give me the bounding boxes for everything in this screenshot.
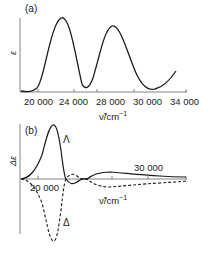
x-ticks-a — [38, 89, 186, 92]
tick-label: 30 000 — [133, 96, 162, 107]
tick-label: 34 000 — [170, 96, 199, 107]
lambda-curve — [21, 125, 186, 184]
x-axis-label-b: ν̃/cm−1 — [99, 194, 127, 206]
figure: (a) ε 20 000 24 000 28 000 30 000 34 000… — [0, 0, 208, 253]
tick-label: 20 000 — [24, 96, 53, 107]
panel-b: (b) Δε Λ Δ 20 000 30 000 ν̃/cm−1 — [8, 124, 187, 241]
epsilon-curve — [21, 18, 176, 92]
tick-label-20000: 20 000 — [30, 182, 59, 193]
delta-label: Δ — [63, 217, 70, 228]
x-tick-labels-a: 20 000 24 000 28 000 30 000 34 000 — [24, 96, 199, 107]
panel-a: (a) ε 20 000 24 000 28 000 30 000 34 000… — [8, 3, 199, 122]
x-axis-label-a: ν̃/cm−1 — [99, 110, 127, 122]
panel-b-label: (b) — [25, 125, 37, 136]
lambda-label: Λ — [63, 134, 70, 145]
panel-a-label: (a) — [25, 3, 37, 14]
y-axis-label-delta-epsilon: Δε — [8, 155, 18, 167]
tick-label: 28 000 — [96, 96, 125, 107]
tick-label: 24 000 — [59, 96, 88, 107]
tick-label-30000: 30 000 — [134, 162, 163, 173]
y-axis-label-epsilon: ε — [8, 50, 18, 55]
